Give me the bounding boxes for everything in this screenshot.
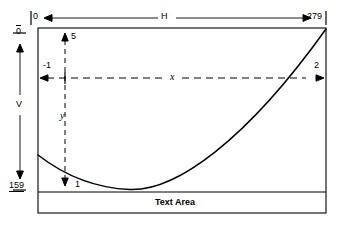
vertical-dimension-group xyxy=(13,33,26,190)
left-gap-label: -1 xyxy=(43,61,51,70)
v-axis-start-label: 0 xyxy=(16,25,21,36)
top-gap-label: 5 xyxy=(71,32,76,41)
horizontal-dimension-group xyxy=(31,11,326,25)
x-arrow-head-left xyxy=(40,75,48,81)
h-axis-end-label: 279 xyxy=(307,12,322,21)
v-axis-end-label: 159 xyxy=(9,181,24,192)
bottom-gap-label: 1 xyxy=(75,180,80,189)
v-axis-span-label: V xyxy=(16,100,22,109)
top-gap-arrow-head xyxy=(62,33,68,41)
x-dimension-group xyxy=(40,72,324,84)
v-arrow-head-top xyxy=(17,44,24,52)
bottom-gap-arrow-head xyxy=(62,178,68,186)
right-gap-label: 2 xyxy=(314,61,319,70)
v-arrow-head-bottom xyxy=(17,171,24,179)
h-axis-span-label: H xyxy=(161,12,168,21)
h-arrow-head-left xyxy=(44,15,52,22)
curve-path xyxy=(38,29,326,190)
figure-container: | 279 --> xyxy=(0,0,344,233)
h-axis-start-label: 0 xyxy=(33,12,38,21)
y-extent-label: y xyxy=(60,111,64,121)
x-arrow-head-right xyxy=(316,75,324,81)
text-area-label: Text Area xyxy=(155,198,195,207)
x-extent-label: x xyxy=(170,72,174,82)
page-frame xyxy=(38,28,326,213)
